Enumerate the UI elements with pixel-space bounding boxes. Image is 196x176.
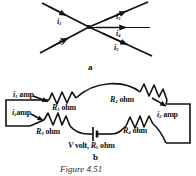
label-i2-amp: i2amp (12, 109, 31, 118)
label-i2-amp-right: i2 amp (157, 111, 178, 120)
battery-symbol (93, 127, 97, 141)
upper-branch-wire (30, 84, 167, 106)
label-R4-ohm: R4 ohm (123, 127, 147, 136)
label-R2-ohm: R2 ohm (110, 96, 134, 105)
figure-caption: Figure 4.51 (60, 164, 102, 174)
label-source-v-r5: V volt, R5 ohm (68, 142, 115, 151)
figure-container: i1 i2 i3 i4 i5 a (0, 0, 196, 176)
resistor-R2-symbol (140, 84, 167, 100)
label-R1-ohm: R1 ohm (52, 104, 76, 113)
panel-label-b: b (93, 152, 98, 162)
label-R3-ohm: R3 ohm (36, 128, 60, 137)
resistor-R3-symbol (44, 113, 70, 126)
label-i1-amp: i1 amp (13, 91, 34, 100)
